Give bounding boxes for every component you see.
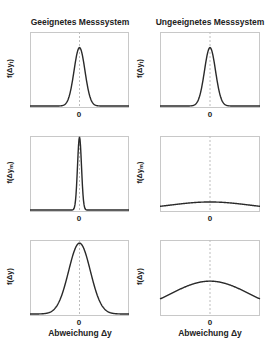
xtick-zero: 0 [204, 318, 216, 327]
ylabel-row1-left: f(Δyt) [5, 49, 14, 89]
plot-top-left [30, 32, 129, 108]
ylabel-row3-left: f(Δy) [5, 257, 14, 297]
xtick-zero: 0 [73, 214, 85, 223]
xlabel-left: Abweichung Δy [20, 328, 140, 338]
plot-top-right [160, 32, 260, 108]
xtick-zero: 0 [204, 110, 216, 119]
ylabel-row2-left: f(Δym) [5, 153, 14, 193]
plot-middle-left [30, 136, 129, 212]
plot-middle-right [160, 136, 260, 212]
plot-bottom-right [160, 240, 260, 316]
xtick-zero: 0 [73, 110, 85, 119]
xtick-zero: 0 [204, 214, 216, 223]
ylabel-row1-right: f(Δyt) [135, 49, 144, 89]
title-geeignet: Geeignetes Messsystem [20, 17, 140, 27]
plot-bottom-left [30, 240, 129, 316]
ylabel-row3-right: f(Δy) [135, 257, 144, 297]
ylabel-row2-right: f(Δym) [135, 153, 144, 193]
xlabel-right: Abweichung Δy [150, 328, 270, 338]
title-ungeeignet: Ungeeignetes Messsystem [150, 17, 270, 27]
xtick-zero: 0 [73, 318, 85, 327]
